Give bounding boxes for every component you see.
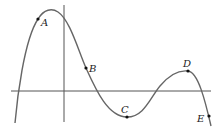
point-d-label: D bbox=[182, 58, 191, 69]
point-a-label: A bbox=[40, 17, 48, 28]
function-graph: A B C D E bbox=[0, 0, 221, 131]
point-a-marker bbox=[36, 17, 39, 20]
point-e-marker bbox=[207, 114, 210, 117]
point-c-label: C bbox=[121, 104, 129, 115]
point-e-label: E bbox=[196, 113, 205, 124]
point-b-marker bbox=[84, 66, 87, 69]
point-d-marker bbox=[186, 69, 189, 72]
point-b-label: B bbox=[88, 63, 96, 74]
point-a: A bbox=[36, 17, 48, 28]
point-b: B bbox=[84, 63, 96, 74]
point-e: E bbox=[196, 113, 211, 124]
point-c-marker bbox=[125, 115, 128, 118]
